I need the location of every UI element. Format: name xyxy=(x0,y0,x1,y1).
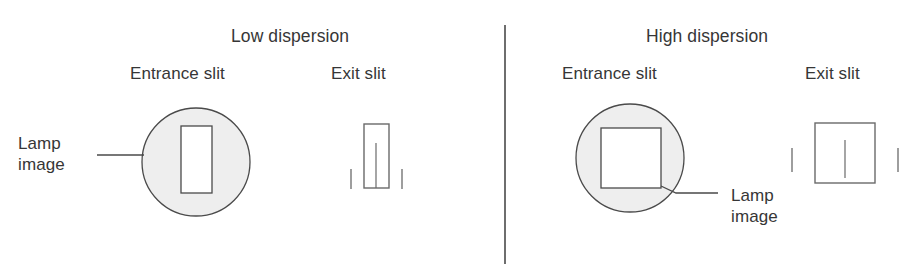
low-entrance-slit-rect xyxy=(181,126,212,193)
dispersion-comparison-figure: Low dispersion Entrance slit Exit slit L… xyxy=(0,0,916,266)
high-dispersion-title: High dispersion xyxy=(646,26,768,47)
low-exit-slit-label: Exit slit xyxy=(331,63,386,84)
high-entrance-slit-label: Entrance slit xyxy=(562,63,657,84)
low-lamp-image-label: Lamp image xyxy=(18,133,65,175)
high-entrance-slit-rect xyxy=(601,128,661,188)
high-lamp-image-label: Lamp image xyxy=(731,185,778,227)
figure-artwork xyxy=(0,0,916,266)
high-exit-slit-label: Exit slit xyxy=(805,63,860,84)
low-dispersion-title: Low dispersion xyxy=(231,26,349,47)
low-entrance-slit-label: Entrance slit xyxy=(130,63,225,84)
